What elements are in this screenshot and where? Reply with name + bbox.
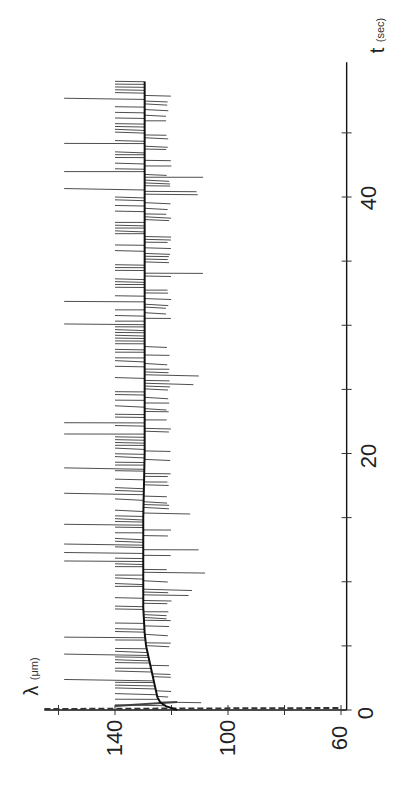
fluctuation-trace <box>64 324 145 325</box>
fluctuation-trace <box>144 502 167 503</box>
fluctuation-trace <box>145 101 168 102</box>
fluctuation-trace <box>115 609 143 610</box>
fluctuation-trace <box>115 200 145 201</box>
fluctuation-trace <box>115 541 143 542</box>
fluctuation-trace <box>115 448 145 449</box>
fluctuation-trace <box>64 544 143 545</box>
fluctuation-trace <box>64 493 144 494</box>
fluctuation-trace <box>144 485 169 486</box>
fluctuation-trace <box>115 211 145 212</box>
fluctuation-trace <box>143 513 190 514</box>
fluctuation-trace <box>115 671 152 672</box>
fluctuation-trace <box>145 372 169 373</box>
fluctuation-trace <box>115 406 145 407</box>
fluctuation-trace <box>115 598 143 599</box>
fluctuation-trace <box>145 180 170 181</box>
fluctuation-trace <box>143 581 168 582</box>
fluctuation-trace <box>145 428 171 429</box>
fluctuation-trace <box>64 679 153 680</box>
t-axis-title: t (sec) <box>366 18 389 54</box>
fluctuation-trace <box>115 152 145 153</box>
fluctuation-trace <box>143 507 168 508</box>
fluctuation-trace <box>115 521 143 522</box>
fluctuation-trace <box>115 442 145 443</box>
fluctuation-trace <box>115 366 145 367</box>
fluctuation-trace <box>115 479 144 480</box>
fluctuation-trace <box>145 276 171 277</box>
fluctuation-trace <box>145 386 170 387</box>
fluctuation-trace <box>115 516 143 517</box>
fluctuation-trace <box>145 389 168 390</box>
fluctuation-trace <box>115 163 145 164</box>
fluctuation-trace <box>145 307 166 308</box>
fluctuation-trace <box>143 592 168 593</box>
fluctuation-trace <box>145 95 171 96</box>
fluctuation-trace <box>145 363 168 364</box>
fluctuation-trace <box>64 654 148 655</box>
t-axis-symbol: t <box>366 48 388 54</box>
fluctuation-trace <box>145 239 171 240</box>
fluctuation-trace <box>145 383 194 384</box>
fluctuation-trace <box>144 505 170 506</box>
fluctuation-trace <box>157 696 168 697</box>
lambda-axis-symbol: λ <box>20 686 42 696</box>
fluctuation-trace <box>115 330 145 331</box>
fluctuation-trace <box>115 660 149 661</box>
fluctuation-trace <box>145 217 171 218</box>
fluctuation-trace <box>145 347 167 348</box>
fluctuation-trace <box>145 634 168 635</box>
fluctuation-trace <box>115 335 145 336</box>
fluctuation-trace <box>115 129 145 130</box>
fluctuation-trace <box>115 141 145 142</box>
fluctuation-trace <box>64 468 144 469</box>
fluctuation-trace <box>145 104 168 105</box>
fluctuation-trace <box>115 112 145 113</box>
fluctuation-trace <box>115 538 143 539</box>
lambda-axis-title: λ (μm) <box>20 657 43 695</box>
fluctuation-trace <box>115 685 155 686</box>
fluctuation-trace <box>145 194 198 195</box>
fluctuation-trace <box>115 454 145 455</box>
fluctuation-trace <box>145 183 170 184</box>
fluctuation-trace <box>145 397 169 398</box>
fluctuation-trace <box>145 380 170 381</box>
fluctuation-trace <box>143 572 205 573</box>
lambda-tick-100: 100 <box>215 720 241 757</box>
fluctuation-trace <box>152 674 170 675</box>
fluctuation-trace <box>115 349 145 350</box>
initial-transient-line <box>44 708 341 709</box>
fluctuation-trace <box>145 299 171 300</box>
fluctuation-trace <box>143 595 188 596</box>
fluctuation-trace <box>145 431 169 432</box>
fluctuation-trace <box>145 409 167 410</box>
t-axis-unit: (sec) <box>374 18 386 42</box>
fluctuation-trace <box>115 440 145 441</box>
fluctuation-trace <box>115 606 143 607</box>
fluctuation-trace <box>115 90 145 91</box>
fluctuation-trace <box>64 524 143 525</box>
fluctuation-trace <box>115 426 145 427</box>
fluctuation-trace <box>115 547 143 548</box>
t-tick-40: 40 <box>356 186 382 210</box>
fluctuation-trace <box>115 282 145 283</box>
fluctuation-trace <box>156 691 171 692</box>
fluctuation-trace <box>64 98 145 99</box>
fluctuation-trace <box>146 646 169 647</box>
fluctuation-trace <box>115 499 144 500</box>
fluctuation-trace <box>64 553 143 554</box>
fluctuation-trace <box>115 197 145 198</box>
fluctuation-trace <box>115 629 144 630</box>
fluctuation-trace <box>115 657 149 658</box>
lambda-axis-unit: (μm) <box>28 657 40 680</box>
fluctuation-trace <box>153 677 171 678</box>
fluctuation-trace <box>143 589 192 590</box>
fluctuation-trace <box>64 637 145 638</box>
fluctuation-trace <box>64 189 145 190</box>
fluctuation-trace <box>145 174 167 175</box>
fluctuation-trace <box>115 510 143 511</box>
fluctuation-trace <box>145 208 168 209</box>
fluctuation-trace <box>115 651 147 652</box>
t-tick-20: 20 <box>356 444 382 468</box>
fluctuation-trace <box>144 615 167 616</box>
fluctuation-trace <box>115 584 143 585</box>
